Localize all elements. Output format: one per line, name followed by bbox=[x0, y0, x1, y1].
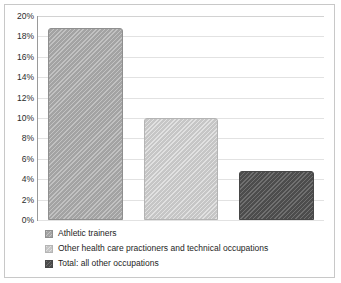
legend-item-label: Athletic trainers bbox=[58, 229, 117, 238]
y-axis-tick-label: 6% bbox=[22, 155, 34, 164]
legend-swatch-icon bbox=[45, 260, 53, 268]
y-axis-tick-label: 14% bbox=[17, 73, 34, 82]
chart-figure: 0%2%4%6%8%10%12%14%16%18%20% Athletic tr… bbox=[4, 4, 335, 278]
y-axis-tick-label: 10% bbox=[17, 114, 34, 123]
legend-item-label: Other health care practioners and techni… bbox=[58, 244, 268, 253]
y-axis-tick-label: 18% bbox=[17, 32, 34, 41]
legend-item[interactable]: Athletic trainers bbox=[45, 226, 330, 241]
chart-legend: Athletic trainersOther health care pract… bbox=[45, 226, 330, 271]
bar bbox=[144, 118, 218, 220]
y-axis-tick-label: 8% bbox=[22, 134, 34, 143]
y-axis-tick-label: 20% bbox=[17, 12, 34, 21]
legend-item[interactable]: Other health care practioners and techni… bbox=[45, 241, 330, 256]
y-axis-tick-label: 16% bbox=[17, 53, 34, 62]
y-axis-tick-label: 0% bbox=[22, 216, 34, 225]
legend-swatch-icon bbox=[45, 230, 53, 238]
legend-swatch-icon bbox=[45, 245, 53, 253]
legend-item-label: Total: all other occupations bbox=[58, 259, 159, 268]
y-axis-tick-label: 2% bbox=[22, 195, 34, 204]
y-axis-tick-label: 12% bbox=[17, 93, 34, 102]
legend-item[interactable]: Total: all other occupations bbox=[45, 256, 330, 271]
y-axis-tick-label: 4% bbox=[22, 175, 34, 184]
plot-area: 0%2%4%6%8%10%12%14%16%18%20% bbox=[37, 16, 324, 221]
bar bbox=[48, 28, 122, 220]
bar-series bbox=[38, 16, 324, 220]
gridline: 0% bbox=[38, 220, 324, 221]
bar bbox=[239, 171, 313, 220]
